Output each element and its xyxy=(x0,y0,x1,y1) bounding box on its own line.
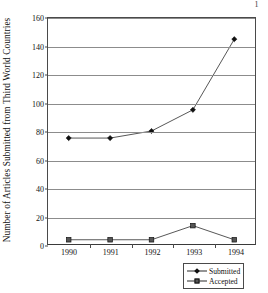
gridline xyxy=(48,132,255,133)
y-tick-label: 20 xyxy=(36,213,44,222)
x-tick-mark xyxy=(215,244,216,248)
x-tick-label: 1994 xyxy=(228,248,244,257)
data-point-submitted-1993 xyxy=(190,107,195,112)
y-tick-mark xyxy=(45,246,48,247)
y-tick-mark xyxy=(45,132,48,133)
y-tick-mark xyxy=(45,189,48,190)
y-tick-label: 0 xyxy=(40,242,44,251)
y-tick-mark xyxy=(45,18,48,19)
y-tick-mark xyxy=(45,160,48,161)
y-tick-label: 120 xyxy=(32,71,44,80)
y-axis-title: Number of Articles Submitted from Third … xyxy=(2,18,12,243)
plot-area: 0204060801001201401601990199119921993199… xyxy=(47,17,256,245)
x-tick-label: 1991 xyxy=(103,248,119,257)
y-tick-mark xyxy=(45,103,48,104)
y-tick-mark xyxy=(45,217,48,218)
y-tick-label: 160 xyxy=(32,14,44,23)
x-tick-mark xyxy=(132,244,133,248)
y-tick-label: 80 xyxy=(36,128,44,137)
x-tick-mark xyxy=(90,244,91,248)
legend-label: Accepted xyxy=(208,277,238,286)
legend-marker-square-icon xyxy=(186,276,208,286)
data-point-submitted-1990 xyxy=(66,135,71,140)
gridline xyxy=(48,75,255,76)
series-line-submitted xyxy=(69,39,235,138)
data-point-accepted-1993 xyxy=(191,223,196,228)
legend-label: Submitted xyxy=(208,267,240,276)
gridline xyxy=(48,18,255,19)
gridline xyxy=(48,189,255,190)
data-point-accepted-1994 xyxy=(232,237,237,242)
gridline xyxy=(48,104,255,105)
gridline xyxy=(48,161,255,162)
legend-item-submitted: Submitted xyxy=(186,266,240,276)
y-tick-label: 40 xyxy=(36,185,44,194)
chart-legend: SubmittedAccepted xyxy=(183,263,244,289)
y-tick-mark xyxy=(45,75,48,76)
page-number-mark: 1 xyxy=(254,1,259,8)
data-point-accepted-1991 xyxy=(108,237,113,242)
y-axis-title-container: Number of Articles Submitted from Third … xyxy=(0,14,14,246)
y-tick-mark xyxy=(45,46,48,47)
x-tick-label: 1992 xyxy=(145,248,161,257)
data-point-accepted-1990 xyxy=(66,237,71,242)
x-tick-label: 1990 xyxy=(61,248,77,257)
gridline xyxy=(48,218,255,219)
y-tick-label: 140 xyxy=(32,42,44,51)
gridline xyxy=(48,47,255,48)
data-point-submitted-1994 xyxy=(232,37,237,42)
series-layer xyxy=(48,18,255,244)
legend-item-accepted: Accepted xyxy=(186,276,240,286)
chart-figure: 1 Number of Articles Submitted from Thir… xyxy=(0,0,268,293)
y-tick-label: 100 xyxy=(32,99,44,108)
data-point-submitted-1991 xyxy=(108,135,113,140)
legend-marker-diamond-icon xyxy=(186,266,208,276)
data-point-accepted-1992 xyxy=(149,237,154,242)
x-tick-label: 1993 xyxy=(186,248,202,257)
x-tick-mark xyxy=(173,244,174,248)
y-tick-label: 60 xyxy=(36,156,44,165)
